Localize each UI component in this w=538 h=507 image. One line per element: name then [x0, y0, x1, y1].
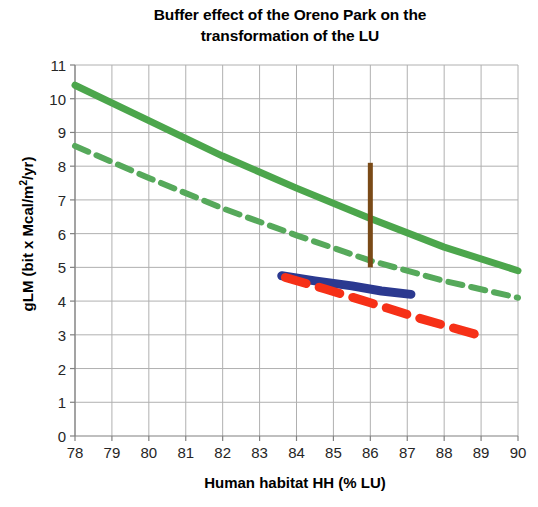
x-axis-tick-labels: 78798081828384858687888990 — [75, 445, 518, 467]
chart-canvas — [75, 65, 518, 436]
y-axis-tick-label: 11 — [38, 58, 66, 73]
y-axis-tick-label: 6 — [38, 226, 66, 241]
x-axis-tick-label: 88 — [424, 445, 464, 460]
y-axis-tick-label: 7 — [38, 192, 66, 207]
x-axis-tick-label: 83 — [240, 445, 280, 460]
chart-title-line-2: transformation of the LU — [60, 25, 520, 46]
x-axis-tick-label: 78 — [55, 445, 95, 460]
y-axis-tick-label: 2 — [38, 361, 66, 376]
axis-lines — [70, 65, 518, 441]
x-axis-tick-label: 86 — [350, 445, 390, 460]
y-axis-tick-label: 4 — [38, 294, 66, 309]
x-axis-tick-label: 79 — [92, 445, 132, 460]
y-axis-tick-label: 0 — [38, 429, 66, 444]
chart-title-line-1: Buffer effect of the Oreno Park on the — [60, 4, 520, 25]
series-red-dashed-segment — [285, 277, 477, 334]
x-axis-tick-label: 82 — [203, 445, 243, 460]
y-axis-tick-label: 10 — [38, 91, 66, 106]
y-axis-tick-label: 8 — [38, 159, 66, 174]
y-axis-tick-label: 1 — [38, 395, 66, 410]
x-axis-tick-label: 84 — [277, 445, 317, 460]
y-axis-tick-label: 9 — [38, 125, 66, 140]
x-axis-title: Human habitat HH (% LU) — [60, 474, 530, 491]
x-axis-tick-label: 90 — [498, 445, 538, 460]
x-axis-tick-label: 87 — [387, 445, 427, 460]
x-axis-tick-label: 81 — [166, 445, 206, 460]
x-axis-tick-label: 89 — [461, 445, 501, 460]
chart-figure: Buffer effect of the Oreno Park on the t… — [0, 0, 538, 507]
y-axis-tick-labels: 01234567891011 — [33, 65, 66, 436]
chart-title: Buffer effect of the Oreno Park on the t… — [60, 4, 520, 47]
x-axis-tick-label: 85 — [313, 445, 353, 460]
x-axis-tick-label: 80 — [129, 445, 169, 460]
y-axis-title-superscript: 2 — [18, 180, 29, 186]
plot-area — [75, 65, 518, 436]
y-axis-tick-label: 3 — [38, 327, 66, 342]
y-axis-tick-label: 5 — [38, 260, 66, 275]
